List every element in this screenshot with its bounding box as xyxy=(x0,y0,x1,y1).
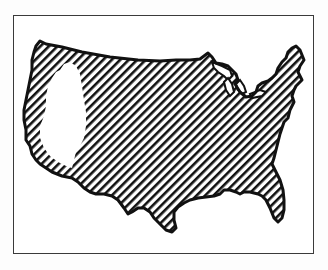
map-figure xyxy=(0,0,328,270)
us-map xyxy=(0,0,328,270)
